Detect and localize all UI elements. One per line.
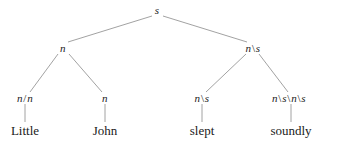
node-label: n\s xyxy=(195,92,210,104)
tree-edge-np-to-noun xyxy=(69,54,102,92)
leaf-label: slept xyxy=(190,123,215,138)
node-noun-n: n xyxy=(102,93,108,104)
leaf-word-soundly: soundly xyxy=(270,124,311,137)
tree-edge-vp-to-adverb xyxy=(259,54,288,92)
leaf-label: soundly xyxy=(270,123,311,138)
node-label: n\s\n\s xyxy=(272,92,306,104)
leaf-label: Little xyxy=(11,123,39,138)
tree-edge-root-to-np xyxy=(68,16,152,42)
category-letter: n xyxy=(27,92,33,104)
node-adverb-n-s-n-s: n\s\n\s xyxy=(272,93,306,104)
category-letter: n xyxy=(272,92,278,104)
leaf-word-little: Little xyxy=(11,124,39,137)
leaf-word-john: John xyxy=(93,124,118,137)
tree-edge-np-to-adj xyxy=(30,54,58,92)
category-letter: n xyxy=(246,42,252,54)
node-adjective-n-over-n: n/n xyxy=(17,93,33,104)
category-letter: s xyxy=(301,92,306,104)
node-label: n/n xyxy=(17,92,33,104)
tree-edge-root-to-vp xyxy=(163,16,247,42)
node-label: n xyxy=(60,42,66,54)
node-np-n: n xyxy=(60,43,66,54)
category-letter: s xyxy=(205,92,210,104)
node-verb-n-s: n\s xyxy=(195,93,210,104)
leaf-word-slept: slept xyxy=(190,124,215,137)
node-label: n xyxy=(102,92,108,104)
category-letter: n xyxy=(195,92,201,104)
tree-edge-vp-to-verb xyxy=(206,54,246,92)
leaf-label: John xyxy=(93,123,118,138)
category-letter: n xyxy=(102,92,108,104)
category-letter: n xyxy=(60,42,66,54)
category-letter: s xyxy=(155,4,160,16)
node-vp-n-s: n\s xyxy=(246,43,261,54)
tree-edges xyxy=(25,16,291,122)
category-letter: s xyxy=(256,42,261,54)
node-label: s xyxy=(155,4,160,16)
category-letter: n xyxy=(17,92,23,104)
node-label: n\s xyxy=(246,42,261,54)
node-root-s: s xyxy=(155,5,160,16)
syntax-tree-figure: s n n\s n/n n n\s n\s\n\s Little John sl… xyxy=(0,0,341,144)
